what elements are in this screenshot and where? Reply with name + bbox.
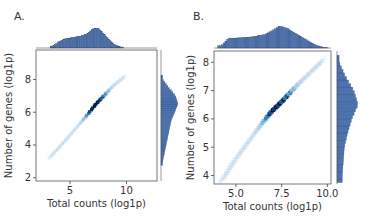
x-tick-label: 5.0 [228,188,244,199]
x-axis-label: Total counts (log1p) [46,198,146,209]
y-tick-label: 6 [25,107,31,118]
jointplot-b: 5.07.510.045678Total counts (log1p)Numbe… [182,0,367,219]
panel-b: B. 5.07.510.045678Total counts (log1p)Nu… [182,0,367,219]
y-tick-label: 4 [203,170,209,181]
x-tick-label: 10 [120,185,133,196]
y-axis-label: Number of genes (log1p) [3,53,14,178]
density-hexbin [48,74,127,160]
jointplot-a: 5102468Total counts (log1p)Number of gen… [0,0,182,219]
marginal-x-histogram [218,26,328,48]
y-tick-label: 5 [203,142,209,153]
y-tick-label: 8 [25,74,31,85]
y-tick-label: 2 [25,172,31,183]
x-axis-label: Total counts (log1p) [222,201,322,212]
marginal-y-histogram [161,75,178,165]
panel-label: B. [193,10,204,23]
marginal-x-histogram [50,28,124,48]
density-hexbin [218,56,327,183]
y-tick-label: 8 [203,57,209,68]
y-axis-label: Number of genes (log1p) [185,55,196,180]
y-tick-label: 7 [203,85,209,96]
x-tick-label: 5 [67,185,73,196]
plot-frame [36,50,157,181]
panel-a: A. 5102468Total counts (log1p)Number of … [0,0,182,219]
panel-label: A. [14,10,25,23]
marginal-y-histogram [337,55,357,182]
x-tick-label: 10.0 [316,188,338,199]
x-tick-label: 7.5 [274,188,290,199]
y-tick-label: 6 [203,113,209,124]
y-tick-label: 4 [25,139,31,150]
